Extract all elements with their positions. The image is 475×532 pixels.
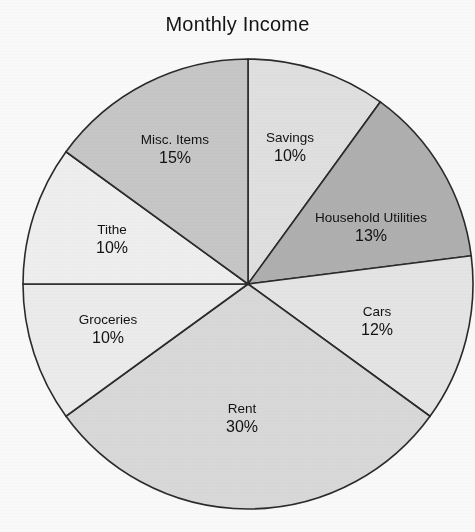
pie-chart-svg: [0, 0, 475, 532]
pie-slice-label-cars: Cars12%: [361, 304, 393, 340]
pie-slice-label-household-utilities: Household Utilities13%: [315, 210, 427, 246]
pie-slice-label-groceries: Groceries10%: [79, 312, 138, 348]
slice-label-name: Rent: [226, 401, 258, 417]
slice-label-name: Cars: [361, 304, 393, 320]
pie-chart-page: Monthly Income Savings10%Household Utili…: [0, 0, 475, 532]
slice-label-value: 12%: [361, 321, 393, 340]
slice-label-value: 10%: [96, 239, 128, 258]
pie-slice-group: [23, 59, 473, 509]
pie-slice-label-savings: Savings10%: [266, 130, 314, 166]
slice-label-value: 15%: [141, 149, 209, 168]
slice-label-value: 10%: [79, 329, 138, 348]
pie-slice-label-rent: Rent30%: [226, 401, 258, 437]
pie-slice-label-tithe: Tithe10%: [96, 222, 128, 258]
slice-label-value: 13%: [315, 227, 427, 246]
slice-label-name: Groceries: [79, 312, 138, 328]
slice-label-name: Household Utilities: [315, 210, 427, 226]
pie-chart: [0, 0, 475, 532]
slice-label-value: 30%: [226, 418, 258, 437]
slice-label-name: Tithe: [96, 222, 128, 238]
slice-label-name: Misc. Items: [141, 132, 209, 148]
slice-label-name: Savings: [266, 130, 314, 146]
pie-slice-label-misc-items: Misc. Items15%: [141, 132, 209, 168]
slice-label-value: 10%: [266, 147, 314, 166]
